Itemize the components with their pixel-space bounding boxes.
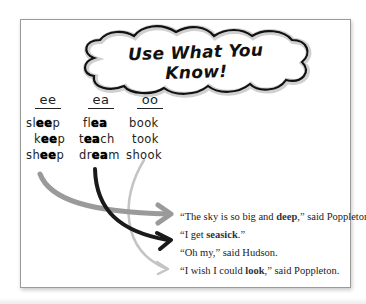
- sentence: “The sky is so big and deep,” said Poppl…: [180, 208, 366, 226]
- sentence-list: “The sky is so big and deep,” said Poppl…: [180, 208, 366, 280]
- sentence: “I get seasick.”: [180, 226, 366, 244]
- sentence: “Oh my,” said Hudson.: [180, 244, 366, 262]
- arrow-sheep-to-deep-icon: [40, 174, 171, 223]
- sentence: “I wish I could look,” said Poppleton.: [180, 262, 366, 280]
- arrow-shook-to-look-icon: [129, 160, 168, 274]
